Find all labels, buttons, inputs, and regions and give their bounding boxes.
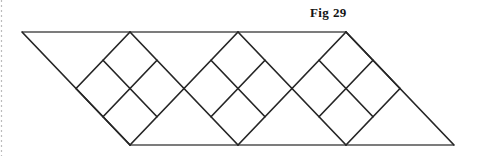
parallelogram-diamond-diagram [0, 0, 483, 156]
figure-panel: Fig 29 [0, 0, 483, 156]
